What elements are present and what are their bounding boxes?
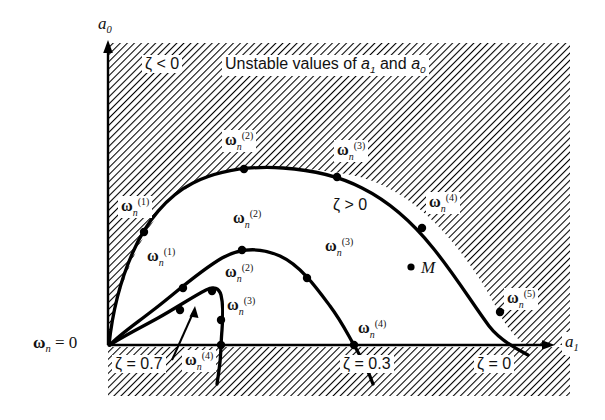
point-omega-outer-1 bbox=[140, 228, 148, 236]
label-omega-inner-2: ωn(2) bbox=[222, 262, 256, 284]
zeta-label-0-7: ζ = 0.7 bbox=[112, 355, 166, 373]
point-omega-outer-4 bbox=[418, 224, 426, 232]
point-omega-inner-4 bbox=[217, 341, 225, 349]
label-omega-inner-4: ωn(4) bbox=[182, 350, 216, 372]
label-omega-inner-3: ωn(3) bbox=[224, 295, 258, 317]
label-omega-outer-3: ωn(3) bbox=[334, 140, 368, 162]
label-omega-mid-4: ωn(4) bbox=[355, 318, 389, 340]
point-M-dot bbox=[407, 263, 414, 270]
zeta-label-0-3: ζ = 0.3 bbox=[340, 355, 394, 373]
axis-label-a0: a0 bbox=[95, 14, 115, 37]
label-omega-outer-1: ωn(1) bbox=[118, 196, 152, 218]
label-omega-outer-5: ωn(5) bbox=[504, 288, 538, 310]
label-omega-mid-3: ωn(3) bbox=[322, 236, 356, 258]
point-omega-mid-3 bbox=[303, 274, 311, 282]
figure-canvas: a0 a1 ωn = 0 ζ < 0 Unstable values of a1… bbox=[0, 0, 605, 420]
region-label-zeta-negative: ζ < 0 bbox=[142, 55, 182, 73]
point-omega-outer-5 bbox=[496, 308, 504, 316]
axis-label-a1: a1 bbox=[562, 332, 582, 355]
point-omega-mid-1 bbox=[179, 284, 187, 292]
label-omega-mid-1: ωn(1) bbox=[144, 246, 178, 268]
point-omega-outer-2 bbox=[240, 165, 248, 173]
point-omega-outer-3 bbox=[333, 173, 341, 181]
point-omega-mid-4 bbox=[350, 341, 358, 349]
region-label-zeta-positive: ζ > 0 bbox=[330, 196, 370, 214]
label-omega-mid-2: ωn(2) bbox=[230, 208, 264, 230]
zeta-label-0: ζ = 0 bbox=[474, 355, 514, 373]
point-omega-inner-1 bbox=[176, 306, 184, 314]
point-M-label: M bbox=[418, 258, 438, 277]
label-omega-outer-2: ωn(2) bbox=[222, 130, 256, 152]
point-omega-mid-2 bbox=[238, 246, 246, 254]
origin-label-omega-n-zero: ωn = 0 bbox=[30, 333, 80, 356]
label-omega-outer-4: ωn(4) bbox=[426, 192, 460, 214]
region-label-unstable: Unstable values of a1 and a0 bbox=[222, 55, 429, 76]
point-omega-inner-2 bbox=[208, 287, 216, 295]
